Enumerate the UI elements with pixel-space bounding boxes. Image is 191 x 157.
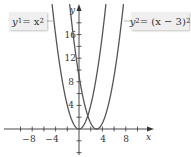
y-tick-label: 8 bbox=[68, 77, 74, 87]
x-tick-label: −8 bbox=[22, 134, 36, 144]
y1-label-box: y1 = x2 bbox=[9, 12, 47, 30]
y-tick-label: 4 bbox=[68, 100, 74, 110]
y2-label-box: y2 = (x − 3)2 bbox=[131, 12, 189, 30]
x-axis-arrow-icon bbox=[147, 127, 154, 132]
x-tick-label: 8 bbox=[123, 134, 129, 144]
x-axis-label: x bbox=[146, 132, 151, 142]
x-tick-label: 4 bbox=[100, 134, 106, 144]
y-tick-label: 12 bbox=[65, 53, 76, 63]
y-tick-label: 16 bbox=[65, 30, 77, 40]
x-tick-label: −4 bbox=[45, 134, 59, 144]
y-axis-arrow-icon bbox=[77, 4, 82, 11]
y1-exp: 2 bbox=[39, 17, 43, 25]
y2-exp: 2 bbox=[186, 17, 190, 25]
y1-rhs: = x bbox=[22, 16, 39, 27]
y2-rhs: = (x − 3) bbox=[140, 16, 186, 27]
